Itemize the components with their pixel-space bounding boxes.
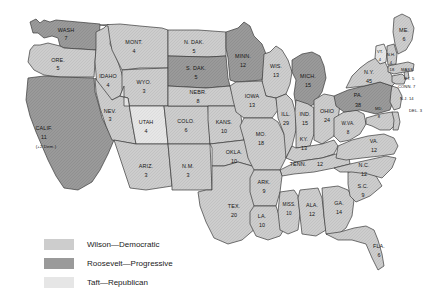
label-southdakota: S. DAK. bbox=[186, 65, 206, 71]
value-nevada: 3 bbox=[108, 116, 111, 122]
legend-swatch-wilson bbox=[44, 239, 74, 250]
label-rhodeisland: R.I. 5 bbox=[404, 76, 415, 81]
value-maine: 6 bbox=[402, 36, 405, 42]
label-missouri: MO. bbox=[256, 131, 266, 137]
label-wyoming: WYO. bbox=[137, 79, 152, 85]
state-arkansas[interactable] bbox=[250, 170, 282, 206]
label-michigan: MICH. bbox=[300, 73, 316, 79]
value-virginia: 12 bbox=[371, 147, 377, 153]
label-arkansas: ARK. bbox=[258, 179, 271, 185]
value-kentucky: 13 bbox=[301, 145, 307, 151]
value-nebraska: 8 bbox=[196, 98, 199, 104]
state-colorado[interactable] bbox=[164, 106, 210, 144]
value-wyoming: 3 bbox=[142, 88, 145, 94]
electoral-map-figure: WASH 7 ORE. 5 CALIF. 11 (+2 Dem.) NEV. 3… bbox=[0, 0, 426, 294]
label-colorado: COLO. bbox=[177, 118, 194, 124]
state-maine[interactable] bbox=[393, 14, 414, 54]
value-ohio: 24 bbox=[324, 117, 330, 123]
label-nevada: NEV. bbox=[104, 108, 117, 114]
value-georgia: 14 bbox=[336, 209, 342, 215]
label-oregon: ORE. bbox=[51, 57, 65, 63]
label-kansas: KANS. bbox=[216, 119, 233, 125]
value-southcarolina: 9 bbox=[361, 192, 364, 198]
label-northdakota: N. DAK. bbox=[184, 39, 204, 45]
label-northcarolina: N.C. bbox=[358, 162, 369, 168]
label-georgia: GA. bbox=[334, 200, 344, 206]
label-massachusetts: MASS. bbox=[401, 67, 414, 72]
value-southdakota: 5 bbox=[194, 74, 197, 80]
value-montana: 4 bbox=[132, 48, 135, 54]
value-michigan: 15 bbox=[305, 82, 311, 88]
label-newjersey: N.J. 14 bbox=[400, 96, 414, 101]
note-california: (+2 Dem.) bbox=[36, 144, 57, 149]
label-utah: UTAH bbox=[139, 119, 154, 125]
state-wyoming[interactable] bbox=[122, 68, 168, 106]
value-washington: 7 bbox=[64, 35, 67, 41]
value-pennsylvania: 38 bbox=[355, 102, 361, 108]
legend-label-taft: Taft—Republican bbox=[87, 278, 148, 287]
label-idaho: IDAHO bbox=[99, 73, 117, 79]
value-wisconsin: 13 bbox=[273, 72, 279, 78]
label-montana: MONT. bbox=[125, 39, 142, 45]
label-illinois: ILL. bbox=[281, 111, 290, 117]
label-maryland: MD. bbox=[375, 106, 383, 111]
value-tennessee: 12 bbox=[317, 161, 323, 167]
label-iowa: IOWA bbox=[245, 93, 260, 99]
label-southcarolina: S.C. bbox=[358, 183, 369, 189]
label-minnesota: MINN. bbox=[235, 53, 251, 59]
legend-label-roosevelt: Roosevelt—Progressive bbox=[87, 259, 173, 268]
value-massachusetts: 18 bbox=[390, 67, 395, 72]
value-texas: 20 bbox=[231, 212, 237, 218]
label-nebraska: NEBR. bbox=[190, 89, 207, 95]
label-washington: WASH bbox=[58, 27, 74, 33]
value-arkansas: 9 bbox=[262, 188, 265, 194]
label-newhampshire: N.H. bbox=[387, 52, 396, 57]
value-california: 11 bbox=[41, 134, 47, 140]
label-tennessee: TENN. bbox=[290, 161, 307, 167]
label-mississippi: MISS. bbox=[282, 202, 295, 207]
label-texas: TEX. bbox=[228, 203, 240, 209]
legend-item-taft: Taft—Republican bbox=[44, 274, 254, 290]
legend-item-wilson: Wilson—Democratic bbox=[44, 236, 254, 252]
legend-item-roosevelt: Roosevelt—Progressive bbox=[44, 255, 254, 271]
label-westvirginia: W.VA. bbox=[342, 121, 355, 126]
label-indiana: IND. bbox=[299, 111, 310, 117]
value-florida: 6 bbox=[377, 252, 380, 258]
state-westvirginia[interactable] bbox=[334, 110, 366, 142]
value-arizona: 3 bbox=[144, 172, 147, 178]
label-virginia: VA. bbox=[370, 138, 379, 144]
label-newyork: N.Y. bbox=[364, 69, 374, 75]
value-northcarolina: 12 bbox=[361, 171, 367, 177]
label-oklahoma: OKLA. bbox=[226, 149, 242, 155]
value-northdakota: 5 bbox=[192, 48, 195, 54]
label-wisconsin: WIS. bbox=[270, 63, 282, 69]
label-florida: FLA. bbox=[373, 243, 385, 249]
value-missouri: 18 bbox=[258, 140, 264, 146]
value-iowa: 13 bbox=[249, 102, 255, 108]
label-newmexico: N.M. bbox=[182, 163, 194, 169]
label-kentucky: KY. bbox=[300, 136, 308, 142]
label-louisiana: LA. bbox=[258, 213, 266, 219]
legend-swatch-taft bbox=[44, 277, 74, 288]
states-layer bbox=[26, 14, 414, 270]
label-arizona: ARIZ. bbox=[139, 163, 153, 169]
value-alabama: 12 bbox=[309, 211, 315, 217]
value-oklahoma: 10 bbox=[231, 158, 237, 164]
value-colorado: 6 bbox=[184, 127, 187, 133]
label-california: CALIF. bbox=[36, 125, 53, 131]
state-southdakota[interactable] bbox=[168, 56, 230, 88]
value-newyork: 45 bbox=[366, 78, 372, 84]
value-newmexico: 3 bbox=[186, 172, 189, 178]
state-pennsylvania[interactable] bbox=[334, 82, 394, 114]
label-vermont: VT. bbox=[377, 49, 383, 54]
value-idaho: 4 bbox=[106, 82, 109, 88]
label-maine: ME. bbox=[399, 27, 409, 33]
value-mississippi: 10 bbox=[286, 211, 292, 216]
legend-swatch-roosevelt bbox=[44, 258, 74, 269]
value-louisiana: 10 bbox=[259, 222, 265, 228]
value-kansas: 10 bbox=[221, 128, 227, 134]
value-westvirginia: 8 bbox=[347, 130, 350, 135]
label-alabama: ALA. bbox=[306, 202, 318, 208]
map-legend: Wilson—Democratic Roosevelt—Progressive … bbox=[44, 236, 254, 293]
state-minnesota[interactable] bbox=[226, 22, 266, 82]
